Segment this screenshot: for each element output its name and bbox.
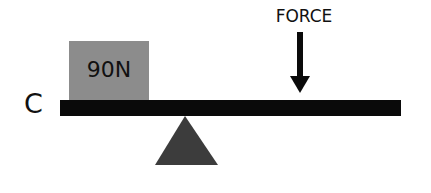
diagram-shapes [0,0,431,193]
fulcrum-triangle [155,116,218,165]
force-arrow-icon [290,32,310,93]
